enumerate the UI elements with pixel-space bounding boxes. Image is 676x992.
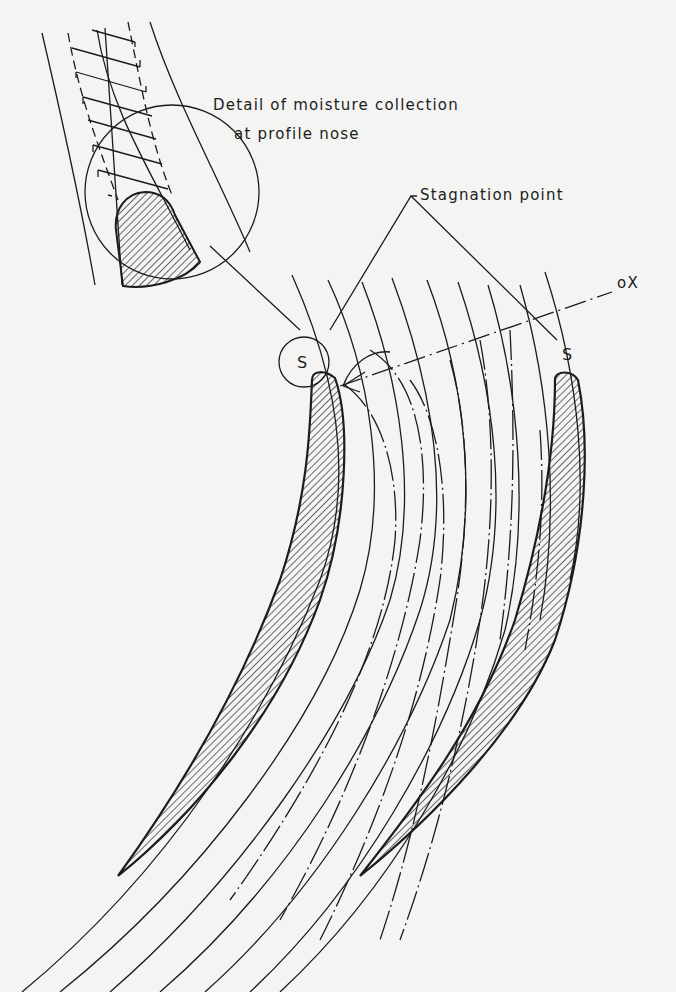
s-right-label: S bbox=[562, 345, 572, 364]
stagnation-point-label: Stagnation point bbox=[420, 186, 564, 204]
s-left-label: S bbox=[297, 353, 307, 372]
blade-left bbox=[118, 372, 344, 876]
blade-right bbox=[360, 373, 585, 877]
detail-inset bbox=[42, 22, 300, 330]
stagnation-leaders bbox=[330, 196, 557, 340]
axis-ox-label: oX bbox=[617, 274, 639, 292]
detail-caption-line2: at profile nose bbox=[234, 125, 360, 143]
cascade-diagram: S S bbox=[0, 0, 676, 992]
detail-caption-line1: Detail of moisture collection bbox=[213, 96, 459, 114]
